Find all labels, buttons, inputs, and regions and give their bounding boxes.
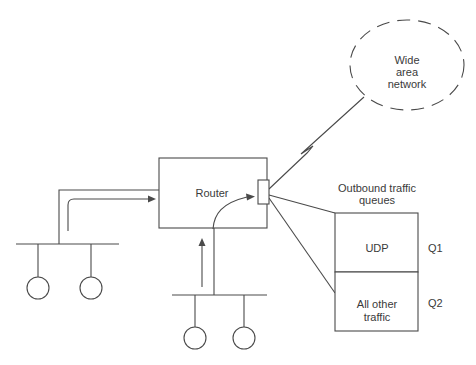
bottom-flow-arrowhead-icon: [199, 238, 206, 246]
host-node-icon: [233, 327, 255, 349]
queue-q1-tag: Q1: [428, 242, 443, 254]
queue-q2-tag: Q2: [428, 297, 443, 309]
queue-q2-label-line-1: All other: [357, 298, 398, 310]
host-node-icon: [27, 277, 49, 299]
host-node-icon: [184, 327, 206, 349]
network-diagram: Router Wide area network Outbound traffi…: [0, 0, 476, 365]
wan-label-line-1: Wide: [394, 54, 419, 66]
queue-q1-label: UDP: [365, 242, 388, 254]
left-lan-link-line: [59, 190, 159, 244]
left-flow-arrowhead-icon: [148, 196, 156, 203]
diagram-canvas: Router Wide area network Outbound traffi…: [0, 0, 476, 365]
queues-title-line-1: Outbound traffic: [338, 182, 417, 194]
router-label: Router: [195, 187, 228, 199]
queue-callout-line-q2: [269, 198, 335, 293]
router-port: [258, 180, 269, 204]
host-node-icon: [80, 277, 102, 299]
wan-label-line-2: area: [396, 66, 419, 78]
queues-title-line-2: queues: [359, 194, 396, 206]
queue-q2-label-line-2: traffic: [364, 311, 391, 323]
queue-callout-line-q1: [269, 195, 335, 213]
wan-label-line-3: network: [388, 78, 427, 90]
wan-link-line: [269, 97, 364, 189]
left-flow-arrow-line: [68, 199, 148, 231]
